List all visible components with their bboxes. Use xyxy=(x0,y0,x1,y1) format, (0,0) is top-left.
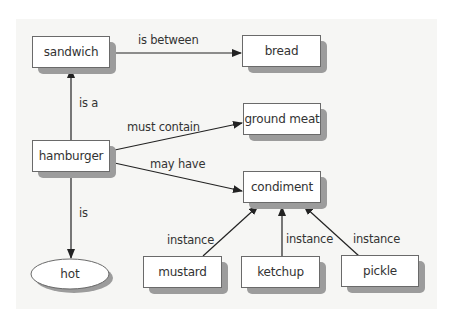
edge-label-instance-ketchup: instance xyxy=(286,232,333,246)
edge-label-instance-mustard: instance xyxy=(167,233,214,247)
node-ketchup: ketchup xyxy=(241,256,320,288)
edge-label-is-between: is between xyxy=(138,33,199,47)
edge-label-is: is xyxy=(79,206,88,220)
edge-instance-pickle xyxy=(304,206,359,256)
edge-label-instance-pickle: instance xyxy=(353,232,400,246)
edge-label-must-contain: must contain xyxy=(127,120,200,134)
node-sandwich: sandwich xyxy=(32,36,110,68)
node-ground-meat: ground meat xyxy=(243,103,321,135)
node-hot-label: hot xyxy=(60,267,80,281)
node-mustard: mustard xyxy=(143,256,222,288)
edge-instance-mustard xyxy=(203,206,258,256)
node-pickle: pickle xyxy=(341,255,419,287)
edge-label-may-have: may have xyxy=(150,157,205,171)
node-bread: bread xyxy=(242,35,321,67)
edge-label-is-a: is a xyxy=(79,96,98,110)
node-hamburger: hamburger xyxy=(32,140,110,172)
node-condiment: condiment xyxy=(243,171,321,203)
